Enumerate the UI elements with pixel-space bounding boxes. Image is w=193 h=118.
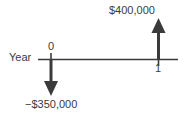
axis-title-year: Year bbox=[9, 52, 31, 63]
outflow-arrow-period-0 bbox=[44, 60, 58, 97]
up-arrow-icon bbox=[152, 18, 166, 33]
down-arrow-icon bbox=[44, 81, 58, 96]
tick-label-period-1: 1 bbox=[155, 63, 161, 74]
inflow-arrow-period-1 bbox=[152, 18, 166, 60]
cash-flow-diagram: Year 0 1 $400,000 −$350,000 bbox=[0, 0, 193, 118]
outflow-amount-label: −$350,000 bbox=[25, 99, 77, 110]
inflow-amount-label: $400,000 bbox=[109, 5, 155, 16]
tick-label-period-0: 0 bbox=[48, 41, 54, 52]
